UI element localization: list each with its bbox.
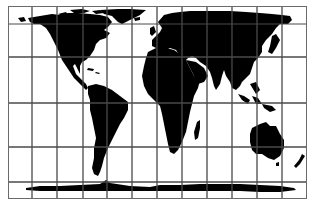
map-canvas [0,0,313,207]
world-map [0,0,313,207]
